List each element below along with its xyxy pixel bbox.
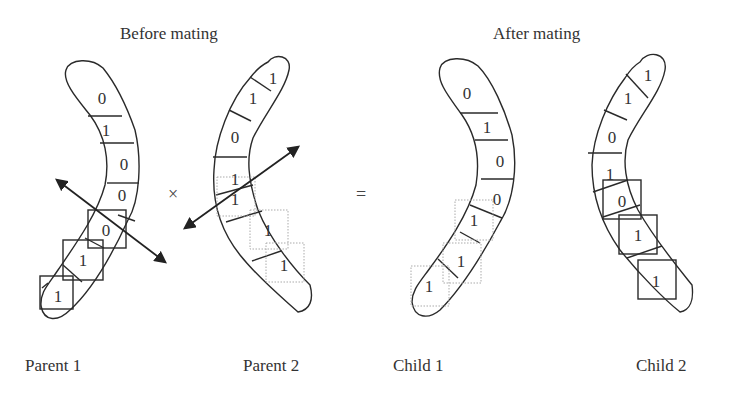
diagram-canvas: 0 1 0 0 0 1 1 1 1 0 [0,0,730,400]
gene-cell: 0 [98,89,107,108]
gene-cell: 1 [264,221,273,240]
gene-cell: 1 [102,121,111,140]
parent1-genes: 0 1 0 0 0 1 1 [54,89,129,306]
gene-cell: 1 [634,226,643,245]
gene-cell: 1 [624,89,633,108]
gene-cell: 1 [231,170,240,189]
gene-cell: 0 [618,192,627,211]
gene-cell: 1 [644,66,653,85]
gene-cell: 1 [483,118,492,137]
gene-cell: 1 [606,165,615,184]
gene-cell: 0 [118,186,127,205]
parent2-chromosome [213,56,312,312]
gene-cell: 0 [120,155,129,174]
gene-cell: 0 [496,152,505,171]
gene-cell: 1 [249,89,258,108]
child1-genes: 0 1 0 0 1 1 1 [425,84,505,296]
gene-cell: 1 [54,287,63,306]
gene-cell: 0 [102,221,111,240]
gene-cell: 0 [231,128,240,147]
gene-cell: 0 [463,84,472,103]
parent2-genes: 1 1 0 1 1 1 1 [231,69,289,275]
gene-cell: 1 [280,256,289,275]
gene-cell: 1 [457,252,466,271]
gene-cell: 1 [79,251,88,270]
genetic-crossover-diagram: Before mating After mating × = Parent 1 … [0,0,730,400]
child2-chromosome [588,54,693,312]
gene-cell: 1 [425,277,434,296]
parent1-crossover-arrow [57,180,165,262]
gene-cell: 1 [470,211,479,230]
gene-cell: 1 [269,69,278,88]
gene-cell: 0 [608,128,617,147]
gene-cell: 1 [652,272,661,291]
gene-cell: 0 [493,190,502,209]
